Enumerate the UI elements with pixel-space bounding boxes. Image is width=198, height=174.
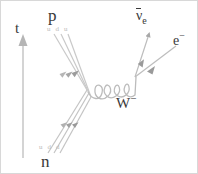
antineutrino-symbol: ν xyxy=(136,9,142,23)
proton-quark-content-label: u d u xyxy=(47,25,69,33)
antineutrino-line xyxy=(135,34,149,77)
proton-quark-arrowheads xyxy=(60,70,80,77)
proton-label: p xyxy=(48,7,57,24)
w-boson-symbol: W xyxy=(116,95,130,111)
electron-charge: − xyxy=(179,30,185,41)
neutron-label: n xyxy=(41,153,50,170)
proton-quark-lines xyxy=(54,34,91,97)
time-axis-arrow xyxy=(19,34,28,158)
time-axis-label: t xyxy=(15,21,19,36)
antineutrino-flavor-subscript: e xyxy=(142,15,146,26)
w-boson-label: W− xyxy=(116,96,136,111)
neutron-quark-arrowheads xyxy=(61,122,79,128)
neutron-quark-content-label: u d d xyxy=(39,143,61,151)
electron-label: e− xyxy=(173,34,185,48)
w-boson-charge: − xyxy=(130,92,136,104)
antineutrino-label: νe xyxy=(136,9,147,23)
diagram-canvas xyxy=(1,1,198,174)
feynman-diagram-figure: t p u d u u d d n W− νe e− xyxy=(0,0,198,174)
